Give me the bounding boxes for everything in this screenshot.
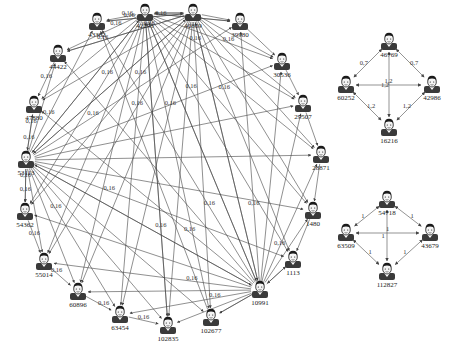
edge-40869-102835: [169, 22, 192, 316]
person-avatar-icon: [379, 263, 395, 280]
person-avatar-icon: [137, 4, 153, 21]
edge-40869-60896: [82, 21, 190, 282]
node-label: 60896: [69, 301, 87, 309]
node-44422[interactable]: 44422: [49, 45, 67, 71]
person-avatar-icon: [50, 45, 66, 62]
edge-53113-1113: [34, 163, 283, 256]
edge-weight-label: 0,16: [135, 68, 147, 75]
person-avatar-icon: [424, 76, 440, 93]
person-avatar-icon: [36, 253, 52, 270]
node-label: 47880: [25, 114, 43, 122]
edge-10991-55014: [54, 263, 251, 289]
node-40869[interactable]: 40869: [184, 4, 202, 30]
node-102835[interactable]: 102835: [158, 317, 180, 343]
node-10991[interactable]: 10991: [251, 281, 269, 307]
person-avatar-icon: [17, 203, 33, 220]
edge-weight-label: 0,16: [23, 133, 35, 140]
node-label: 102677: [201, 327, 223, 335]
person-avatar-icon: [252, 281, 268, 298]
edge-weight-label: 0,16: [43, 108, 55, 115]
person-avatar-icon: [338, 76, 354, 93]
node-label: 60252: [337, 94, 355, 102]
edge-weight-label: 0,16: [102, 68, 114, 75]
person-avatar-icon: [112, 306, 128, 323]
node-label: 28871: [312, 164, 330, 172]
edge-weight-label: 1: [381, 232, 384, 239]
edge-10991-60896: [88, 290, 251, 292]
node-63509[interactable]: 63509: [337, 224, 355, 250]
edge-weight-label: 1,2: [381, 81, 389, 88]
person-avatar-icon: [313, 146, 329, 163]
node-47880[interactable]: 47880: [25, 96, 43, 122]
network-diagram: 0,160,160,160,160,160,160,160,160,160,16…: [0, 0, 451, 351]
node-43382[interactable]: 43382: [88, 13, 106, 39]
edge-63509-112827: [353, 240, 379, 265]
node-29507[interactable]: 29507: [294, 95, 312, 121]
node-63454[interactable]: 63454: [111, 306, 129, 332]
node-112827[interactable]: 112827: [377, 263, 398, 289]
edge-53113-102835: [32, 167, 162, 319]
edge-102677-43382: [101, 31, 208, 309]
node-28871[interactable]: 28871: [312, 146, 330, 172]
edge-weight-label: 0,16: [209, 291, 221, 298]
person-avatar-icon: [379, 191, 395, 208]
node-30536[interactable]: 30536: [273, 53, 291, 79]
edge-weight-label: 1,2: [367, 102, 375, 109]
edge-weight-label: 0,16: [29, 229, 41, 236]
edge-53113-39980: [34, 27, 232, 155]
edge-weight-label: 0,16: [123, 11, 135, 18]
edge-weight-label: 0,16: [155, 221, 167, 228]
node-60896[interactable]: 60896: [69, 283, 87, 309]
person-avatar-icon: [70, 283, 86, 300]
node-54362[interactable]: 54362: [16, 203, 34, 229]
edge-weight-label: 0,16: [186, 274, 198, 281]
edge-weight-label: 0,16: [274, 239, 286, 246]
person-avatar-icon: [295, 95, 311, 112]
edge-weight-label: 0,16: [87, 109, 99, 116]
edge-weight-label: 0,16: [110, 19, 122, 26]
person-avatar-icon: [89, 13, 105, 30]
node-55014[interactable]: 55014: [35, 253, 53, 279]
node-label: 10991: [251, 299, 269, 307]
person-avatar-icon: [285, 251, 301, 268]
person-avatar-icon: [18, 151, 34, 168]
edge-weight-label: 1: [369, 248, 372, 255]
edge-weight-label: 0,16: [98, 299, 110, 306]
node-label: 112827: [377, 281, 398, 289]
node-1480[interactable]: 1480: [305, 202, 321, 228]
edge-40869-39980: [202, 15, 230, 20]
edge-weight-label: 0,16: [248, 199, 260, 206]
node-1113[interactable]: 1113: [285, 251, 301, 277]
node-label: 42986: [423, 94, 441, 102]
edge-10991-40869: [195, 23, 258, 282]
node-label: 63454: [111, 324, 129, 332]
edge-40869-1480: [198, 21, 308, 203]
edge-weight-label: 0,16: [184, 225, 196, 232]
node-16216[interactable]: 16216: [380, 119, 398, 145]
edge-10991-54362: [34, 215, 251, 287]
edge-weight-label: 0,16: [41, 72, 53, 79]
edge-53113-55014: [28, 169, 43, 252]
node-53113[interactable]: 53113: [17, 151, 35, 177]
edge-weight-label: 0,16: [51, 266, 63, 273]
edge-weight-label: 0,16: [219, 83, 231, 90]
node-label: 29507: [294, 113, 312, 121]
person-avatar-icon: [160, 317, 176, 334]
node-39980[interactable]: 39980: [231, 13, 249, 39]
edge-10991-47880: [42, 111, 253, 284]
edge-weight-label: 1: [386, 225, 389, 232]
node-label: 1480: [306, 220, 321, 228]
node-60252[interactable]: 60252: [337, 76, 355, 102]
edge-53113-42295: [32, 21, 139, 153]
node-label: 102835: [158, 335, 180, 343]
node-102677[interactable]: 102677: [201, 309, 223, 335]
person-avatar-icon: [338, 224, 354, 241]
node-label: 43382: [88, 31, 106, 39]
node-54718[interactable]: 54718: [378, 191, 396, 217]
node-46769[interactable]: 46769: [380, 33, 398, 59]
node-label: 63509: [337, 242, 355, 250]
node-43679[interactable]: 43679: [421, 224, 439, 250]
node-42986[interactable]: 42986: [423, 76, 441, 102]
node-label: 44422: [49, 63, 67, 71]
node-42295[interactable]: 42295: [136, 4, 154, 30]
